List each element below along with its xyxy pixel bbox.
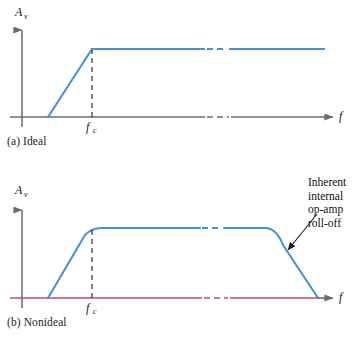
panel-a-tick-sublabel: c <box>93 126 97 135</box>
panel-b-caption: (b) Nonideal <box>7 316 67 328</box>
rolloff-annotation: Inherent internal op-amp roll-off <box>308 176 356 230</box>
panel-a-x-axis-label: f <box>339 109 344 123</box>
annotation-line-3: op-amp <box>308 203 356 217</box>
panel-a-curve-ramp <box>48 49 92 117</box>
panel-b-curve-left <box>48 228 200 298</box>
annotation-line-1: Inherent <box>308 176 356 190</box>
annotation-line-2: internal <box>308 190 356 204</box>
panel-a-group: A v f f c <box>10 5 344 135</box>
figure-root: A v f f c <box>0 0 357 345</box>
panel-b-curve-right <box>224 228 318 298</box>
panel-a-y-axis-label: A <box>14 5 23 19</box>
panel-b-tick-sublabel: c <box>93 307 97 316</box>
figure-canvas: A v f f c <box>0 0 357 345</box>
panel-a-caption: (a) Ideal <box>7 135 47 147</box>
panel-b-y-axis-label: A <box>14 183 23 197</box>
panel-a-y-axis-sublabel: v <box>24 12 28 21</box>
panel-b-y-axis-sublabel: v <box>24 190 28 199</box>
annotation-line-4: roll-off <box>308 217 356 231</box>
panel-a-tick-label: f <box>86 120 91 134</box>
panel-b-tick-label: f <box>86 301 91 315</box>
panel-b-x-axis-label: f <box>339 290 344 304</box>
panel-b-group: A v f f c <box>10 183 344 316</box>
